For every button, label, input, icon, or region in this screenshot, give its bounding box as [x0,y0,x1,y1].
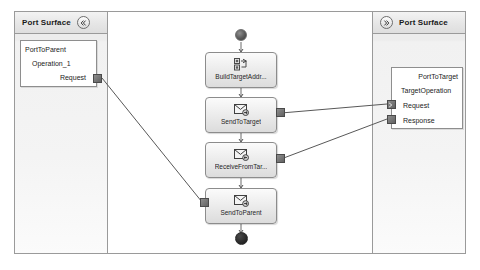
port-connector-parent-request[interactable] [93,74,102,83]
activity-send-to-target[interactable]: SendToTarget [205,97,277,133]
swimlane-left-title: Port Surface [22,18,71,27]
swimlane-left[interactable]: Port Surface PortToParent Operation_1 Re… [15,12,108,253]
port-message-request: Request [60,73,86,82]
port-connector-target-request[interactable] [387,100,396,109]
activity-build-target-addr[interactable]: BuildTargetAddr... [205,52,277,88]
swimlane-right[interactable]: Port Surface PortToTarget TargetOperatio… [372,12,465,253]
activity-receive-from-target[interactable]: ReceiveFromTar... [205,142,277,178]
port-box-name: PortToTarget [418,72,458,81]
designer-canvas[interactable]: Port Surface PortToParent Operation_1 Re… [14,11,466,254]
swimlane-left-header[interactable]: Port Surface [15,12,107,34]
send-message-icon [234,102,249,117]
port-message-request: Request [403,101,429,110]
node-port-receive-from-target[interactable] [276,154,285,163]
port-connector-target-response[interactable] [387,115,396,124]
end-node[interactable] [235,232,248,245]
receive-message-icon [234,147,249,162]
port-box-port-to-target[interactable]: PortToTarget TargetOperation Request Res… [391,67,463,129]
swimlane-right-title: Port Surface [399,18,448,27]
collapse-left-icon[interactable] [77,16,90,29]
port-box-port-to-parent[interactable]: PortToParent Operation_1 Request [20,40,97,87]
node-port-send-to-target[interactable] [276,108,285,117]
swimlane-right-header[interactable]: Port Surface [373,12,465,34]
start-node[interactable] [235,29,247,41]
activity-label: SendToTarget [221,118,261,126]
node-port-send-to-parent[interactable] [200,198,209,207]
port-box-operation: Operation_1 [32,59,71,68]
activity-send-to-parent[interactable]: SendToParent [205,188,277,224]
port-box-operation: TargetOperation [401,86,451,95]
activity-label: SendToParent [220,209,261,217]
port-box-name: PortToParent [25,45,66,54]
activity-label: ReceiveFromTar... [215,163,268,171]
diagram-screenshot: Port Surface PortToParent Operation_1 Re… [0,0,480,270]
port-message-response: Response [403,116,435,125]
assign-icon [234,57,249,72]
activity-label: BuildTargetAddr... [215,73,266,81]
wire-parent-request-to-sendtoparent [102,78,202,202]
send-message-icon [234,193,249,208]
collapse-right-icon[interactable] [380,16,393,29]
